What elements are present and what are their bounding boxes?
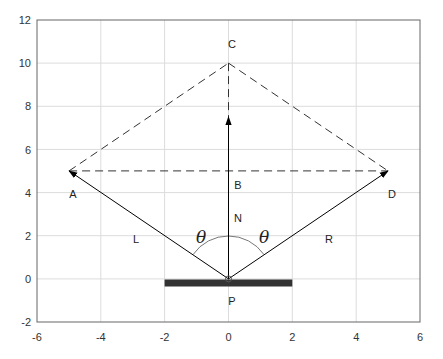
label-theta-left: θ — [196, 227, 206, 247]
x-tick-labels: -6 -4 -2 0 2 4 6 — [32, 331, 423, 343]
x-tick: -2 — [160, 331, 170, 343]
vector-R — [229, 171, 389, 279]
y-tick: 4 — [25, 187, 31, 199]
y-tick: 12 — [19, 14, 31, 26]
x-tick: 4 — [353, 331, 359, 343]
y-tick: 2 — [25, 230, 31, 242]
label-c: C — [228, 38, 236, 50]
y-tick: 10 — [19, 57, 31, 69]
y-tick-labels: -2 0 2 4 6 8 10 12 — [19, 14, 31, 328]
x-tick: -6 — [32, 331, 42, 343]
x-tick: 6 — [417, 331, 423, 343]
label-d: D — [388, 188, 396, 200]
y-tick: -2 — [21, 316, 31, 328]
label-a: A — [69, 188, 77, 200]
reflection-diagram: -6 -4 -2 0 2 4 6 -2 0 2 4 6 8 10 12 A B … — [0, 0, 443, 359]
label-n: N — [234, 212, 242, 224]
label-l: L — [133, 233, 139, 245]
vectors — [69, 117, 388, 279]
x-tick: 2 — [289, 331, 295, 343]
y-tick: 8 — [25, 100, 31, 112]
label-b: B — [234, 179, 241, 191]
label-r: R — [325, 233, 333, 245]
label-p: P — [228, 295, 235, 307]
reflecting-surface — [165, 280, 293, 287]
x-tick: -4 — [96, 331, 106, 343]
label-theta-right: θ — [259, 227, 269, 247]
y-tick: 6 — [25, 144, 31, 156]
vector-L — [69, 171, 228, 279]
x-tick: 0 — [225, 331, 231, 343]
y-tick: 0 — [25, 273, 31, 285]
